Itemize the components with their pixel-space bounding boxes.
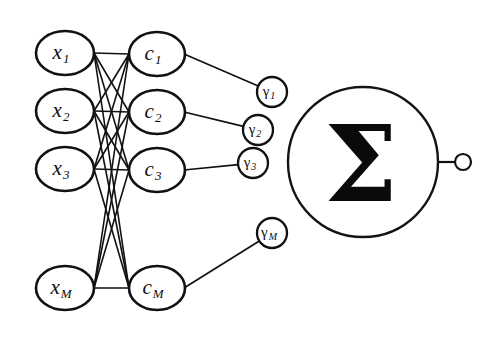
input-node-x2[interactable]: x2	[36, 89, 94, 133]
summation-group: Σ	[288, 87, 471, 237]
hidden-node-c2[interactable]: c2	[129, 90, 185, 134]
output-circle[interactable]	[455, 154, 471, 170]
input-node-x3[interactable]: x3	[36, 147, 94, 191]
weight-node-g3[interactable]: γ3	[238, 148, 268, 178]
weight-node-g2[interactable]: γ2	[243, 115, 273, 145]
network-diagram: Σ x1x2x3xM c1c2c3cM γ1γ2γ3γM	[0, 0, 495, 337]
input-node-xM[interactable]: xM	[36, 266, 94, 310]
hidden-weight-edge	[184, 112, 243, 126]
input-node-group: x1x2x3xM	[36, 31, 94, 310]
weight-node-g1[interactable]: γ1	[257, 77, 287, 107]
weight-node-group: γ1γ2γ3γM	[238, 77, 287, 248]
hidden-node-cM[interactable]: cM	[129, 266, 185, 310]
input-hidden-mesh	[94, 53, 129, 288]
sigma-symbol: Σ	[324, 103, 398, 226]
weight-node-gM[interactable]: γM	[257, 218, 287, 248]
hidden-node-c3[interactable]: c3	[129, 148, 185, 192]
hidden-node-c1[interactable]: c1	[129, 32, 185, 76]
hidden-node-group: c1c2c3cM	[129, 32, 185, 310]
hidden-weight-edge	[184, 241, 259, 288]
hidden-weight-edge	[184, 54, 258, 86]
mesh-edge	[94, 53, 129, 54]
hidden-weight-edge	[184, 165, 238, 170]
input-node-x1[interactable]: x1	[36, 31, 94, 75]
diagram-canvas: Σ x1x2x3xM c1c2c3cM γ1γ2γ3γM	[0, 0, 495, 337]
